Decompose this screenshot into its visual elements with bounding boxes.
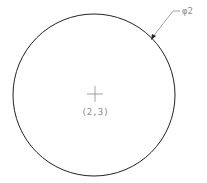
center-coordinate-label: (2,3) [81,107,108,117]
leader-arrow-icon [151,34,156,40]
diameter-label: φ2 [182,6,193,16]
cad-drawing: (2,3) φ2 [0,0,207,183]
center-mark-icon [87,86,103,102]
diameter-leader [152,11,180,38]
circle [13,14,175,176]
